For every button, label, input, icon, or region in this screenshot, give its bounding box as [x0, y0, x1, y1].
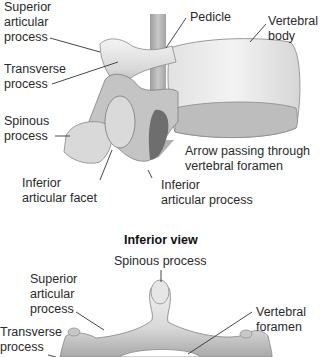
label-vertebral-foramen: Vertebral foramen: [256, 305, 306, 335]
label-line: articular: [30, 287, 77, 302]
label-line: articular: [4, 15, 51, 30]
label-inferior-spinous-process: Spinous process: [114, 254, 206, 269]
label-spinous-process: Spinous process: [4, 114, 49, 144]
label-line: Superior: [4, 0, 51, 15]
label-inferior-transverse-process: Transverse process: [0, 325, 62, 355]
label-line: foramen: [256, 320, 306, 335]
label-line: process: [30, 302, 77, 317]
label-line: Superior: [30, 272, 77, 287]
inferior-view-vertebra-shape: [60, 280, 272, 357]
label-inferior-superior-articular-process: Superior articular process: [30, 272, 77, 317]
label-line: Spinous: [4, 114, 49, 129]
label-line: Transverse: [4, 62, 66, 77]
label-line: Inferior: [22, 176, 97, 191]
label-line: articular facet: [22, 191, 97, 206]
label-transverse-process: Transverse process: [4, 62, 66, 92]
label-line: process: [4, 30, 51, 45]
label-line: Inferior: [161, 178, 253, 193]
label-line: Arrow passing through: [185, 144, 310, 159]
label-line: process: [4, 129, 49, 144]
label-arrow-caption: Arrow passing through vertebral foramen: [185, 144, 310, 174]
label-line: articular process: [161, 193, 253, 208]
label-line: Vertebral: [256, 305, 306, 320]
label-inferior-articular-process: Inferior articular process: [161, 178, 253, 208]
inferior-view-heading: Inferior view: [124, 233, 198, 247]
label-line: body: [268, 29, 318, 44]
posterior-elements-shape: [64, 39, 178, 163]
label-inferior-articular-facet: Inferior articular facet: [22, 176, 97, 206]
label-pedicle: Pedicle: [190, 10, 231, 25]
label-line: process: [0, 340, 62, 355]
label-line: Vertebral: [268, 14, 318, 29]
vertebral-body-shape: [168, 39, 300, 138]
label-line: vertebral foramen: [185, 159, 310, 174]
label-vertebral-body: Vertebral body: [268, 14, 318, 44]
label-superior-articular-process: Superior articular process: [4, 0, 51, 45]
label-line: Transverse: [0, 325, 62, 340]
label-line: process: [4, 77, 66, 92]
